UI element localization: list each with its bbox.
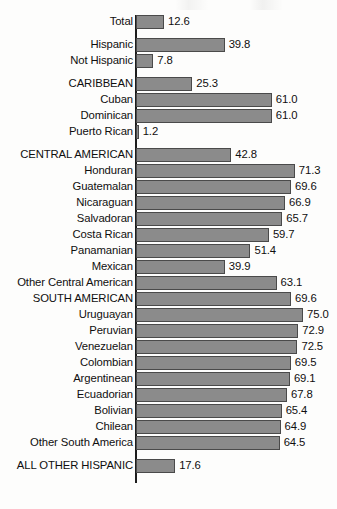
bar	[136, 324, 298, 338]
bar	[136, 93, 272, 107]
bar-category-label: CENTRAL AMERICAN	[20, 149, 133, 160]
bar-category-label: Bolivian	[94, 405, 133, 416]
bar	[136, 308, 303, 322]
bar-rows-container: Total12.6Hispanic39.8Not Hispanic7.8CARI…	[0, 15, 337, 473]
bar-row: Colombian69.5	[0, 356, 337, 370]
bar-category-label: Mexican	[92, 261, 133, 272]
bar-category-label: CARIBBEAN	[69, 78, 133, 89]
bar	[136, 404, 282, 418]
bar-category-label: Cuban	[100, 94, 133, 105]
bar	[136, 15, 164, 29]
bar-category-label: Dominican	[81, 110, 133, 121]
bar-category-label: Colombian	[80, 357, 133, 368]
bar-category-label: Nicaraguan	[76, 197, 133, 208]
bar-category-label: Ecuadorian	[77, 389, 133, 400]
bar	[136, 459, 175, 473]
bar-value-label: 39.8	[229, 39, 251, 50]
bar-value-label: 7.8	[157, 55, 172, 66]
bar-value-label: 64.9	[285, 421, 307, 432]
bar-value-label: 65.7	[286, 213, 308, 224]
bar	[136, 54, 153, 68]
bar-row: Panamanian51.4	[0, 244, 337, 258]
bar-value-label: 69.6	[295, 181, 317, 192]
bar-row: Costa Rican59.7	[0, 228, 337, 242]
bar-value-label: 71.3	[299, 165, 321, 176]
bar-row: Cuban61.0	[0, 93, 337, 107]
bar-row: Puerto Rican1.2	[0, 125, 337, 139]
bar-value-label: 67.8	[291, 389, 313, 400]
bar	[136, 109, 272, 123]
bar-value-label: 72.9	[302, 325, 324, 336]
bar-row: ALL OTHER HISPANIC17.6	[0, 459, 337, 473]
bar-value-label: 51.4	[254, 245, 276, 256]
bar	[136, 276, 277, 290]
bar-row: Honduran71.3	[0, 164, 337, 178]
bar-value-label: 63.1	[281, 277, 303, 288]
bar	[136, 164, 295, 178]
bar-row: Guatemalan69.6	[0, 180, 337, 194]
bar-category-label: Salvadoran	[77, 213, 133, 224]
bar-value-label: 69.5	[295, 357, 317, 368]
bar-value-label: 69.6	[295, 293, 317, 304]
bar	[136, 436, 280, 450]
bar-row: Venezuelan72.5	[0, 340, 337, 354]
bar-category-label: Costa Rican	[73, 229, 133, 240]
bar-row: Other Central American63.1	[0, 276, 337, 290]
bar-category-label: Puerto Rican	[69, 126, 133, 137]
bar	[136, 38, 225, 52]
bar-category-label: ALL OTHER HISPANIC	[17, 460, 133, 471]
bar-value-label: 39.9	[229, 261, 251, 272]
bar-value-label: 65.4	[286, 405, 308, 416]
bar-row: Dominican61.0	[0, 109, 337, 123]
bar-category-label: Guatemalan	[72, 181, 133, 192]
bar-row: Uruguayan75.0	[0, 308, 337, 322]
bar-category-label: Chilean	[95, 421, 133, 432]
bar	[136, 340, 297, 354]
bar-category-label: SOUTH AMERICAN	[33, 293, 133, 304]
bar	[136, 228, 269, 242]
bar-row: Salvadoran65.7	[0, 212, 337, 226]
bar-category-label: Venezuelan	[75, 341, 133, 352]
bar	[136, 125, 139, 139]
bar-category-label: Peruvian	[89, 325, 133, 336]
bar-category-label: Total	[110, 16, 133, 27]
bar	[136, 372, 290, 386]
bar	[136, 260, 225, 274]
bar-value-label: 17.6	[179, 460, 201, 471]
bar-chart: Total12.6Hispanic39.8Not Hispanic7.8CARI…	[0, 0, 337, 509]
bar-category-label: Honduran	[84, 165, 133, 176]
bar-value-label: 66.9	[289, 197, 311, 208]
bar-row: CENTRAL AMERICAN42.8	[0, 148, 337, 162]
bar-row: Ecuadorian67.8	[0, 388, 337, 402]
bar-value-label: 1.2	[143, 126, 158, 137]
bar-value-label: 25.3	[196, 78, 218, 89]
bar-value-label: 75.0	[307, 309, 329, 320]
bar-category-label: Not Hispanic	[70, 55, 133, 66]
bar-row: Nicaraguan66.9	[0, 196, 337, 210]
bar-category-label: Argentinean	[73, 373, 133, 384]
bar-row: CARIBBEAN25.3	[0, 77, 337, 91]
bar	[136, 196, 285, 210]
bar-row: Not Hispanic7.8	[0, 54, 337, 68]
bar-value-label: 61.0	[276, 94, 298, 105]
bar	[136, 212, 282, 226]
bar	[136, 148, 231, 162]
bar	[136, 244, 250, 258]
bar-value-label: 64.5	[284, 437, 306, 448]
bar-row: Other South America64.5	[0, 436, 337, 450]
bar-row: Peruvian72.9	[0, 324, 337, 338]
bar-value-label: 69.1	[294, 373, 316, 384]
bar	[136, 420, 281, 434]
bar	[136, 77, 192, 91]
bar-row: Argentinean69.1	[0, 372, 337, 386]
bar-category-label: Panamanian	[71, 245, 133, 256]
bar	[136, 388, 287, 402]
plot-area: Total12.6Hispanic39.8Not Hispanic7.8CARI…	[0, 15, 337, 475]
bar-row: Hispanic39.8	[0, 38, 337, 52]
bar-value-label: 61.0	[276, 110, 298, 121]
bar-value-label: 42.8	[235, 149, 257, 160]
bar-category-label: Uruguayan	[79, 309, 133, 320]
bar-category-label: Hispanic	[90, 39, 133, 50]
bar-category-label: Other South America	[30, 437, 133, 448]
bar	[136, 180, 291, 194]
